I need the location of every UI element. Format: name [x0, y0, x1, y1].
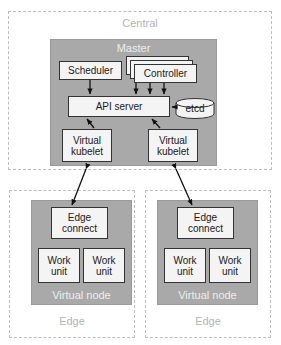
node-edge-connect-right-line2: connect	[188, 223, 223, 234]
node-api-server[interactable]: API server	[68, 96, 170, 117]
node-edge-connect-left-line2: connect	[62, 223, 97, 234]
group-central-label: Central	[8, 17, 272, 29]
node-virtual-kubelet-left-line1: Virtual	[73, 135, 101, 146]
group-edge-right-label: Edge	[145, 315, 271, 327]
node-work-unit-left-2-line1: Work	[92, 255, 115, 266]
node-virtual-kubelet-right[interactable]: Virtual kubelet	[148, 129, 198, 162]
container-virtual-node-right-label: Virtual node	[157, 289, 258, 301]
node-scheduler[interactable]: Scheduler	[59, 61, 122, 80]
node-edge-connect-left-line1: Edge	[68, 212, 91, 223]
diagram-canvas: Central Master Scheduler Controller API …	[0, 0, 281, 345]
node-work-unit-right-1[interactable]: Work unit	[164, 248, 206, 283]
node-work-unit-right-1-line1: Work	[173, 255, 196, 266]
node-work-unit-left-2[interactable]: Work unit	[83, 248, 125, 283]
node-edge-connect-right-line1: Edge	[194, 212, 217, 223]
node-work-unit-right-1-line2: unit	[177, 266, 193, 277]
node-work-unit-right-2[interactable]: Work unit	[209, 248, 251, 283]
node-controller[interactable]: Controller	[134, 64, 197, 83]
node-work-unit-right-2-line2: unit	[222, 266, 238, 277]
node-work-unit-left-1[interactable]: Work unit	[38, 248, 80, 283]
node-work-unit-right-2-line1: Work	[218, 255, 241, 266]
node-virtual-kubelet-right-line1: Virtual	[159, 135, 187, 146]
container-master-label: Master	[50, 42, 217, 54]
node-etcd-label: etcd	[175, 103, 215, 114]
container-virtual-node-left-label: Virtual node	[31, 289, 132, 301]
node-edge-connect-left[interactable]: Edge connect	[51, 207, 108, 239]
node-work-unit-left-1-line2: unit	[51, 266, 67, 277]
node-virtual-kubelet-right-line2: kubelet	[157, 146, 189, 157]
node-virtual-kubelet-left-line2: kubelet	[71, 146, 103, 157]
node-virtual-kubelet-left[interactable]: Virtual kubelet	[62, 129, 112, 162]
node-work-unit-left-1-line1: Work	[47, 255, 70, 266]
group-edge-left-label: Edge	[9, 315, 135, 327]
node-edge-connect-right[interactable]: Edge connect	[177, 207, 234, 239]
node-work-unit-left-2-line2: unit	[96, 266, 112, 277]
